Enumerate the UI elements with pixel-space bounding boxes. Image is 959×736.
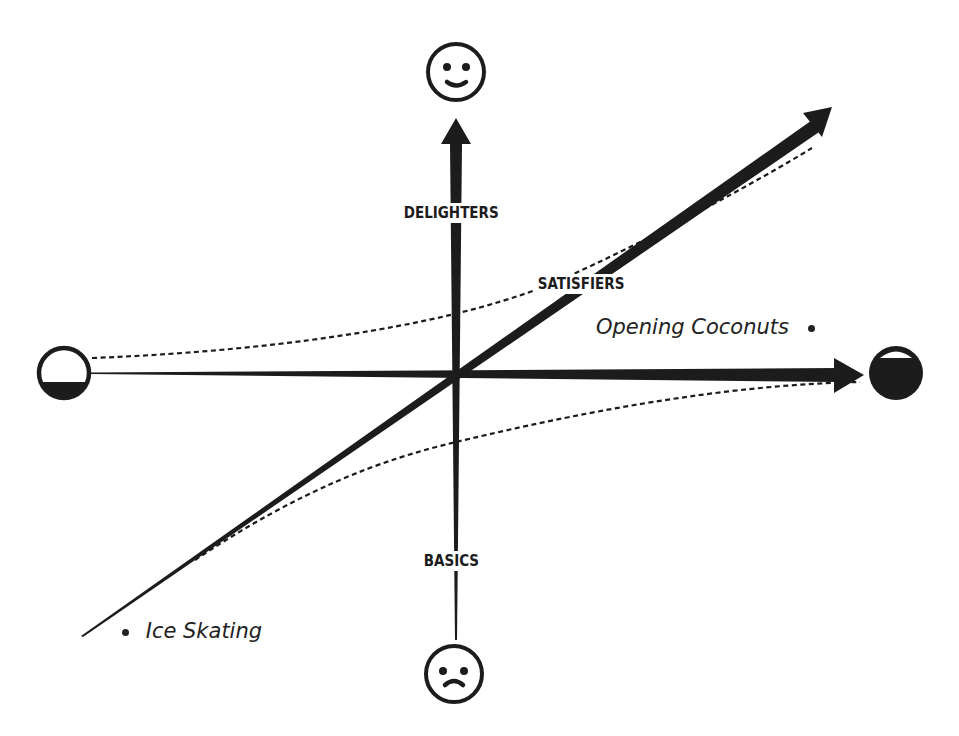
filled-circle-icon — [869, 346, 923, 400]
vertical-arrowhead — [441, 118, 471, 144]
smiley-face-icon — [428, 44, 484, 100]
basics-label: BASICS — [421, 551, 482, 571]
bullet-dot-icon — [808, 325, 815, 332]
horizontal-arrowhead — [834, 358, 864, 393]
kano-diagram: DELIGHTERS SATISFIERS BASICS Opening Coc… — [0, 0, 959, 736]
satisfiers-label: SATISFIERS — [535, 274, 627, 294]
example-label: Opening Coconuts — [596, 315, 789, 339]
example-opening-coconuts: Opening Coconuts — [596, 315, 815, 339]
empty-circle-icon — [36, 348, 92, 402]
frowning-face-icon — [426, 646, 482, 702]
example-label: Ice Skating — [146, 619, 262, 643]
bullet-dot-icon — [122, 629, 129, 636]
basics-curve — [195, 382, 860, 560]
delighters-label: DELIGHTERS — [401, 203, 501, 223]
example-ice-skating: Ice Skating — [122, 619, 262, 643]
